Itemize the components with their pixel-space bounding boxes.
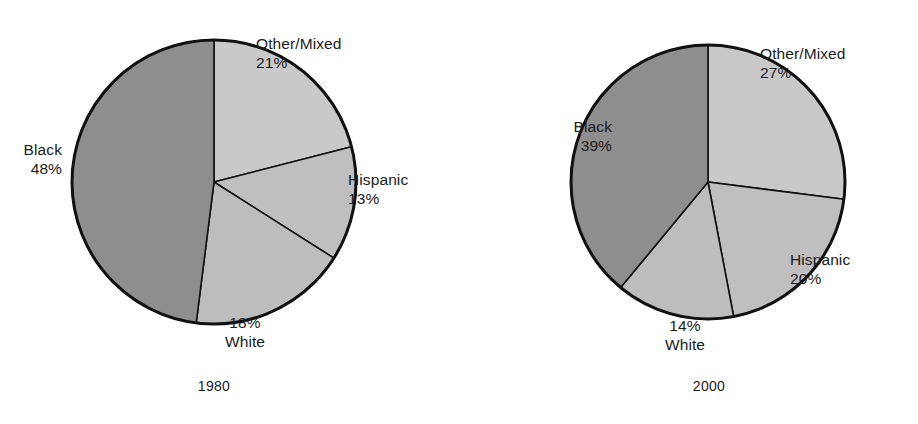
slice-label-other-mixed-2000: Other/Mixed 27% [760, 45, 846, 83]
slice-name-hispanic-2000: Hispanic [790, 251, 850, 268]
pie-slice-black-1980[interactable] [72, 40, 214, 323]
slice-label-hispanic-2000: Hispanic 20% [790, 251, 850, 289]
slice-name-white-2000: White [640, 336, 730, 355]
pie-chart-2000 [460, 0, 918, 360]
year-label-1980: 1980 [169, 378, 259, 394]
slice-pct-hispanic-1980: 13% [348, 190, 408, 209]
slice-pct-black-1980: 48% [0, 160, 62, 179]
slice-name-black-1980: Black [24, 141, 62, 158]
slice-label-other-mixed-1980: Other/Mixed 21% [256, 35, 342, 73]
slice-pct-other-mixed-1980: 21% [256, 54, 342, 73]
slice-label-black-2000: Black 39% [492, 118, 612, 156]
slice-label-black-1980: Black 48% [0, 141, 62, 179]
slice-name-hispanic-1980: Hispanic [348, 171, 408, 188]
slice-pct-hispanic-2000: 20% [790, 270, 850, 289]
slice-pct-black-2000: 39% [492, 137, 612, 156]
slice-name-black-2000: Black [574, 118, 612, 135]
chart-panel-2000: Other/Mixed 27% Hispanic 20% 14% White B… [460, 0, 918, 424]
pie-chart-figure: Other/Mixed 21% Hispanic 13% 18% White B… [0, 0, 918, 424]
slice-label-white-2000: 14% White [640, 317, 730, 355]
slice-label-hispanic-1980: Hispanic 13% [348, 171, 408, 209]
chart-panel-1980: Other/Mixed 21% Hispanic 13% 18% White B… [0, 0, 460, 424]
slice-label-white-1980: 18% White [200, 314, 290, 352]
slice-pct-white-2000: 14% [669, 317, 700, 334]
slice-name-other-mixed-1980: Other/Mixed [256, 35, 342, 52]
slice-pct-white-1980: 18% [229, 314, 260, 331]
slice-name-other-mixed-2000: Other/Mixed [760, 45, 846, 62]
slice-pct-other-mixed-2000: 27% [760, 64, 846, 83]
year-label-2000: 2000 [664, 378, 754, 394]
slice-name-white-1980: White [200, 333, 290, 352]
